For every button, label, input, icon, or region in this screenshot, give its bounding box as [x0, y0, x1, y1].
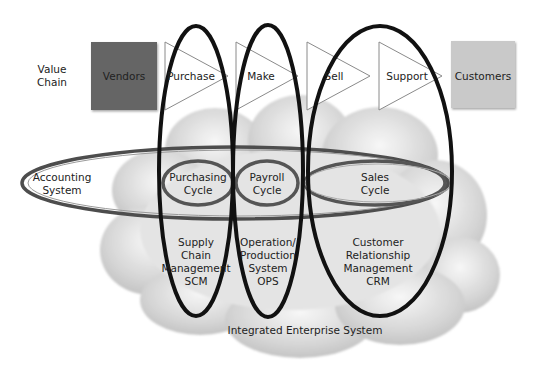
- sales-cycle-label: Sales Cycle: [361, 171, 390, 197]
- value-chain-label: Value Chain: [37, 63, 67, 89]
- stage-make-label: Make: [247, 70, 275, 83]
- integrated-enterprise-system-label: Integrated Enterprise System: [228, 324, 383, 337]
- purchasing-cycle-label: Purchasing Cycle: [169, 171, 226, 197]
- vendors-label: Vendors: [103, 70, 145, 83]
- accounting-system-label: Accounting System: [33, 171, 92, 197]
- stage-support-label: Support: [386, 70, 428, 83]
- scm-label: Supply Chain Management SCM: [161, 236, 230, 288]
- crm-label: Customer Relationship Management CRM: [343, 236, 412, 288]
- payroll-cycle-label: Payroll Cycle: [250, 171, 285, 197]
- stage-sell-label: Sell: [325, 70, 344, 83]
- ops-label: Operation/ Production System OPS: [240, 236, 296, 288]
- customers-label: Customers: [455, 70, 511, 83]
- stage-purchase-label: Purchase: [167, 70, 215, 83]
